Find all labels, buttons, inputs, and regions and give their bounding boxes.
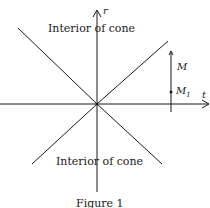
origin-dot	[96, 103, 99, 106]
r-axis-label: r	[103, 6, 108, 16]
cone-line-upper-right	[97, 41, 168, 104]
point-m1-label: M1	[176, 86, 191, 99]
cone-line-upper-left	[18, 28, 97, 104]
point-m1-dot	[170, 91, 173, 94]
region-label-upper: Interior of cone	[48, 23, 135, 34]
figure: Interior of cone Interior of cone r t M …	[0, 0, 210, 208]
t-axis-label: t	[202, 90, 206, 100]
point-m1-subscript: 1	[186, 91, 190, 99]
figure-caption: Figure 1	[76, 198, 124, 208]
region-label-lower: Interior of cone	[56, 156, 143, 167]
point-m-label: M	[177, 62, 187, 72]
